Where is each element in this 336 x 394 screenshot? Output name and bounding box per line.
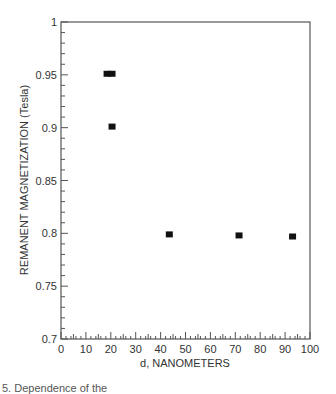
- data-point-marker: [109, 71, 116, 77]
- x-tick-label: 30: [130, 343, 142, 355]
- y-tick-label: 0.7: [42, 333, 57, 345]
- x-tick-label: 40: [154, 343, 166, 355]
- data-point-marker: [289, 234, 296, 240]
- data-point-marker: [236, 232, 243, 238]
- y-tick-label: 0.85: [36, 175, 57, 187]
- y-tick-label: 0.8: [42, 227, 57, 239]
- data-point-marker: [109, 124, 116, 130]
- axis-ticks: [61, 22, 310, 339]
- x-tick-label: 0: [58, 343, 64, 355]
- y-tick-labels: 0.70.750.80.850.90.951: [36, 16, 57, 345]
- x-tick-label: 20: [105, 343, 117, 355]
- x-axis-title: d, NANOMETERS: [140, 357, 230, 369]
- x-tick-label: 10: [80, 343, 92, 355]
- x-tick-labels: 0102030405060708090100: [58, 343, 319, 355]
- y-axis-title: REMANENT MAGNETIZATION (Tesla): [18, 85, 30, 275]
- data-points: [104, 71, 297, 240]
- x-tick-label: 80: [254, 343, 266, 355]
- x-tick-label: 100: [301, 343, 319, 355]
- data-point-marker: [166, 231, 173, 237]
- x-tick-label: 50: [179, 343, 191, 355]
- x-tick-label: 90: [279, 343, 291, 355]
- figure-caption: 5. Dependence of the: [2, 383, 107, 394]
- y-tick-label: 0.9: [42, 122, 57, 134]
- plot-frame: [61, 22, 310, 339]
- y-tick-label: 1: [51, 16, 57, 28]
- y-tick-label: 0.95: [36, 69, 57, 81]
- y-tick-label: 0.75: [36, 280, 57, 292]
- x-tick-label: 70: [229, 343, 241, 355]
- x-tick-label: 60: [204, 343, 216, 355]
